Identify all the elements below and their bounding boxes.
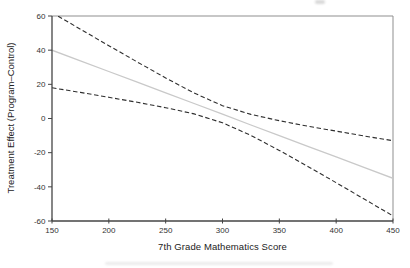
x-tick-label: 250 [159,226,173,235]
y-tick-label: 60 [37,12,46,21]
y-tick-label: 40 [37,46,46,55]
x-tick-label: 150 [45,226,59,235]
x-tick-label: 200 [102,226,116,235]
x-tick-label: 400 [329,226,343,235]
x-tick-label: 350 [273,226,287,235]
y-tick-label: 20 [37,80,46,89]
plot-frame [52,16,393,221]
chart-figure: Treatment Effect (Program–Control) 60402… [0,0,410,268]
y-tick-label: 0 [41,114,46,123]
scan-artifact-bottom [105,262,333,265]
series-upper-confidence-bound [52,13,393,141]
y-tick-label: -60 [34,217,46,226]
x-tick-label: 450 [386,226,400,235]
y-tick-label: -20 [34,148,46,157]
y-axis-title: Treatment Effect (Program–Control) [5,43,16,194]
series-treatment-effect-estimate [52,50,393,178]
x-axis-title: 7th Grade Mathematics Score [52,241,393,252]
y-tick-label: -40 [34,183,46,192]
series-lower-confidence-bound [52,88,393,216]
plot-area: 6040200-20-40-60150200250300350400450 [0,0,410,268]
scan-artifact-top [315,0,325,4]
x-tick-label: 300 [216,226,230,235]
